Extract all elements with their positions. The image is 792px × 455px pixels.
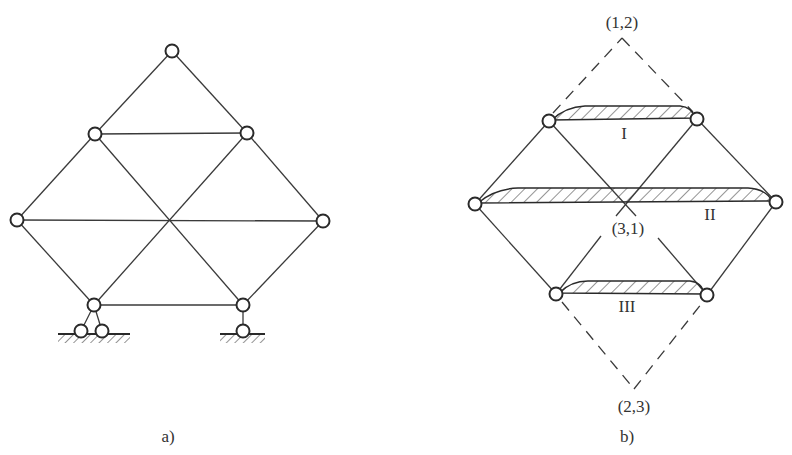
body-III-label: III — [619, 297, 636, 316]
truss-figure: a) — [0, 0, 792, 455]
hinge-node-icon — [701, 289, 714, 302]
hinge-node-icon — [237, 299, 250, 312]
rigid-body-III — [559, 281, 704, 294]
caption-a: a) — [161, 427, 174, 446]
member-top-upperright — [172, 51, 247, 133]
hinge-node-icon — [89, 128, 102, 141]
panel-a-truss: a) — [11, 45, 330, 447]
hinge-node-icon — [770, 196, 783, 209]
hinge-node-icon — [550, 288, 563, 301]
member-upper-horizontal — [95, 133, 247, 134]
truss-nodes — [11, 45, 330, 338]
hinge-node-icon — [317, 215, 330, 228]
member-upperleft-left — [17, 134, 95, 220]
dash-to-center-12-left — [553, 38, 622, 113]
truss-members — [17, 51, 323, 331]
hinge-node-icon — [691, 113, 704, 126]
hinge-node-icon — [469, 198, 482, 211]
ground-left — [58, 334, 130, 343]
dash-to-center-23-right — [634, 303, 702, 389]
hinge-node-icon — [543, 115, 556, 128]
rigid-body-I — [552, 106, 695, 120]
hinge-node-icon — [88, 299, 101, 312]
instant-center-23-label: (2,3) — [618, 397, 651, 416]
member-right-bottomright — [243, 221, 323, 305]
member-left-bottomleft — [17, 220, 94, 305]
instant-center-12-label: (1,2) — [606, 13, 639, 32]
support-hinge-icon — [237, 325, 250, 338]
kinematic-members — [475, 119, 776, 295]
member-top-upperleft — [95, 51, 172, 134]
caption-b: b) — [620, 427, 634, 446]
hinge-node-icon — [11, 214, 24, 227]
member-upperright-right — [247, 133, 323, 221]
support-hinge-icon — [96, 325, 109, 338]
panel-b-kinematic: (1,2) I (3,1) II III (2,3) b) — [469, 13, 783, 446]
dashed-construction-lines — [553, 38, 702, 389]
dash-to-center-12-right — [622, 38, 693, 112]
rigid-body-II — [478, 188, 772, 203]
support-hinge-icon — [75, 325, 88, 338]
body-II-label: II — [704, 205, 716, 224]
hinge-node-icon — [241, 127, 254, 140]
body-I-label: I — [621, 124, 627, 143]
hinge-node-icon — [166, 45, 179, 58]
instant-center-31-label: (3,1) — [612, 219, 645, 238]
